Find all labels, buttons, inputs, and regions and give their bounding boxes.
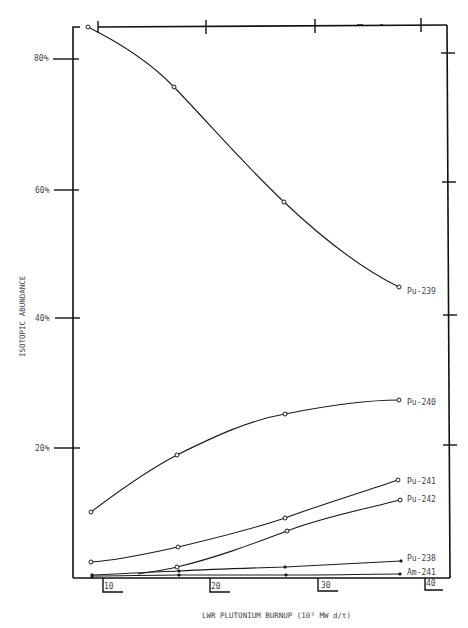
- marker-pu240-1: [89, 510, 93, 514]
- series-label-pu238: Pu-238: [407, 554, 436, 563]
- y-tick-80: 80%: [34, 54, 49, 63]
- curve-pu238: [92, 561, 401, 575]
- top-axis: [98, 25, 447, 27]
- marker-pu240-4: [397, 398, 401, 402]
- marker-pu239-4: [397, 285, 401, 289]
- marker-pu242-3: [285, 529, 289, 533]
- marker-pu239-2: [172, 85, 176, 89]
- marker-pu242-2: [175, 565, 179, 569]
- series-label-pu240: Pu-240: [407, 398, 436, 407]
- left-axis: [73, 27, 80, 578]
- y-axis-title: ISOTOPIC ABUNDANCE: [18, 275, 27, 357]
- isotopic-abundance-chart: 80% 60% 40% 20% 10 20 30 40 ISOTOPIC ABU…: [0, 0, 468, 628]
- marker-pu240-3: [283, 412, 287, 416]
- marker-pu238-2: [178, 570, 181, 573]
- series-label-pu241: Pu-241: [407, 477, 436, 486]
- curve-pu239: [88, 27, 399, 287]
- y-tick-20: 20%: [35, 444, 50, 453]
- marker-pu239-3: [282, 200, 286, 204]
- marker-pu238-4: [400, 560, 403, 563]
- curve-pu241: [91, 480, 398, 562]
- marker-pu241-4: [396, 478, 400, 482]
- series-label-pu242: Pu-242: [407, 495, 436, 504]
- left-axis-ticks: [53, 59, 80, 448]
- x-tick-40: 40: [426, 579, 436, 588]
- marker-am241-1: [91, 576, 94, 579]
- marker-am241-3: [285, 574, 288, 577]
- x-tick-20: 20: [211, 582, 221, 591]
- marker-pu241-1: [89, 560, 93, 564]
- marker-am241-2: [178, 574, 181, 577]
- marker-pu241-3: [283, 516, 287, 520]
- marker-am241-4: [399, 573, 402, 576]
- series-label-pu239: Pu-239: [407, 287, 436, 296]
- markers-open: [86, 25, 402, 569]
- y-tick-60: 60%: [35, 186, 50, 195]
- axes-frame: [73, 25, 450, 578]
- marker-pu242-4: [398, 498, 402, 502]
- right-axis: [447, 25, 450, 578]
- x-tick-10: 10: [104, 582, 114, 591]
- marker-pu238-3: [284, 566, 287, 569]
- y-tick-40: 40%: [35, 314, 50, 323]
- bottom-axis-ticks: [103, 578, 443, 592]
- marker-pu241-2: [176, 545, 180, 549]
- curves: [88, 27, 401, 576]
- x-tick-30: 30: [321, 581, 331, 590]
- marker-pu240-2: [175, 453, 179, 457]
- marker-pu239-1: [86, 25, 90, 29]
- x-axis-title: LWR PLUTONIUM BURNUP (10³ MW d/t): [202, 611, 351, 620]
- series-label-am241: Am-241: [407, 568, 436, 577]
